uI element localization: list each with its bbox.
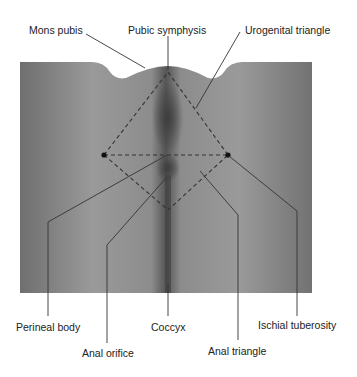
label-mons-pubis: Mons pubis <box>29 25 83 36</box>
label-pubic-symphysis: Pubic symphysis <box>128 25 206 36</box>
left-ischial-marker <box>101 152 106 157</box>
label-ischial-tuberosity: Ischial tuberosity <box>258 320 336 331</box>
label-perineal-body: Perineal body <box>16 322 80 333</box>
label-anal-triangle: Anal triangle <box>208 346 266 357</box>
photo-region <box>20 62 312 293</box>
label-anal-orifice: Anal orifice <box>82 348 134 359</box>
label-coccyx: Coccyx <box>151 322 185 333</box>
perineum-figure: Mons pubis Pubic symphysis Urogenital tr… <box>0 0 357 377</box>
label-urogenital-triangle: Urogenital triangle <box>245 25 330 36</box>
